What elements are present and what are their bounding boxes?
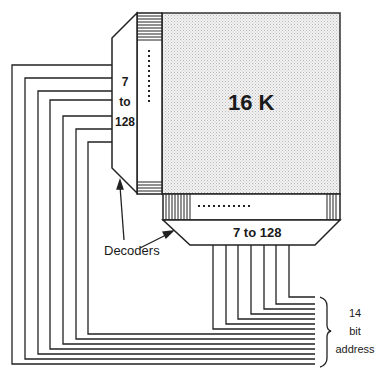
- row-decoder-output-strip: [137, 13, 162, 194]
- column-decoder-label: 7 to 128: [233, 225, 281, 240]
- address-label-line-1: 14: [333, 304, 377, 322]
- row-decoder-label-line-1: 7: [113, 72, 137, 92]
- address-label: 14 bit address: [333, 304, 377, 358]
- address-brace: [320, 297, 331, 367]
- address-label-line-2: bit: [333, 322, 377, 340]
- decoders-label: Decoders: [104, 243, 160, 258]
- row-decoder-label-line-2: to: [113, 92, 137, 112]
- row-decoder-label: 7 to 128: [113, 72, 137, 132]
- row-decoder-label-line-3: 128: [113, 112, 137, 132]
- memory-organization-diagram: [0, 0, 377, 377]
- column-address-lines: [213, 245, 315, 329]
- column-decoder-output-strip: [163, 194, 340, 220]
- memory-size-label: 16 K: [228, 90, 274, 116]
- address-label-line-3: address: [333, 340, 377, 358]
